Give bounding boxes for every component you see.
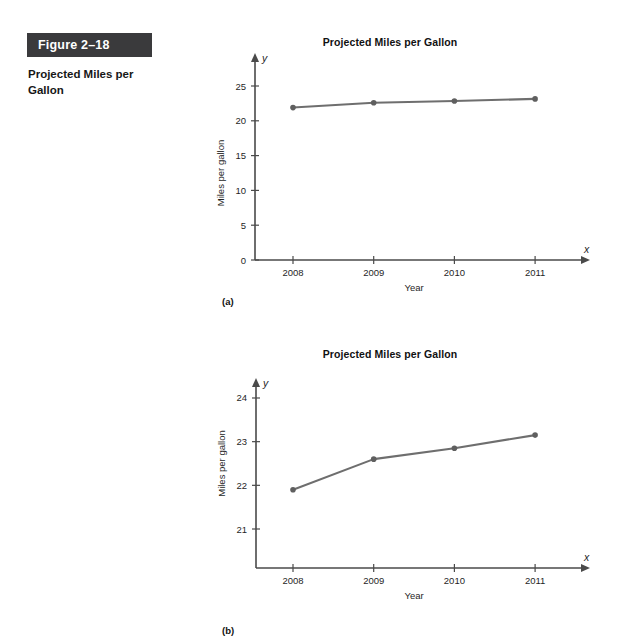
x-axis-arrow xyxy=(581,256,590,264)
y-axis-title: Miles per gallon xyxy=(216,430,227,497)
series-data-point xyxy=(290,105,296,111)
y-tick-label: 24 xyxy=(236,392,247,403)
y-axis-variable-label: y xyxy=(261,52,268,64)
panel-label-b: (b) xyxy=(222,625,234,636)
series-line xyxy=(293,435,535,490)
y-axis-arrow xyxy=(252,378,260,387)
y-tick-label: 23 xyxy=(236,436,247,447)
y-tick-label: 20 xyxy=(235,115,246,126)
y-tick-label: 5 xyxy=(241,220,246,231)
y-tick-label: 25 xyxy=(235,81,246,92)
chart-panel-a: Projected Miles per Gallon y0510152025Mi… xyxy=(200,28,620,318)
x-tick-label: 2011 xyxy=(525,575,545,586)
series-data-point xyxy=(532,432,538,438)
series-data-point xyxy=(452,445,458,451)
chart-panel-b: Projected Miles per Gallon y21222324Mile… xyxy=(200,340,620,640)
chart-a-plot: y0510152025Miles per gallonx200820092010… xyxy=(200,28,620,318)
x-axis-variable-label: x xyxy=(583,551,590,563)
series-data-point xyxy=(371,456,377,462)
y-tick-label: 22 xyxy=(236,480,247,491)
y-tick-label: 0 xyxy=(241,255,246,266)
x-tick-label: 2009 xyxy=(363,575,384,586)
series-data-point xyxy=(371,100,377,106)
chart-b-plot: y21222324Miles per gallonx20082009201020… xyxy=(200,340,620,640)
y-tick-label: 21 xyxy=(236,524,247,535)
x-axis-arrow xyxy=(581,564,590,572)
figure-caption-block: Figure 2–18 Projected Miles per Gallon xyxy=(27,33,167,98)
figure-caption-text: Projected Miles per Gallon xyxy=(28,66,153,98)
x-tick-label: 2008 xyxy=(282,575,303,586)
x-tick-label: 2009 xyxy=(363,267,384,278)
series-data-point xyxy=(290,487,296,493)
x-tick-label: 2011 xyxy=(525,267,545,278)
series-data-point xyxy=(452,98,458,104)
x-tick-label: 2010 xyxy=(444,267,465,278)
figure-number-label: Figure 2–18 xyxy=(27,33,152,57)
y-axis-arrow xyxy=(251,53,259,62)
x-axis-title: Year xyxy=(404,282,423,293)
x-axis-variable-label: x xyxy=(583,243,590,255)
series-line xyxy=(293,99,535,108)
x-axis-title: Year xyxy=(404,590,423,601)
panel-label-a: (a) xyxy=(222,296,234,307)
series-data-point xyxy=(532,96,538,102)
x-tick-label: 2010 xyxy=(444,575,465,586)
y-tick-label: 10 xyxy=(235,185,246,196)
y-axis-title: Miles per gallon xyxy=(215,140,226,207)
x-tick-label: 2008 xyxy=(282,267,303,278)
y-axis-variable-label: y xyxy=(262,377,269,389)
y-tick-label: 15 xyxy=(235,150,246,161)
